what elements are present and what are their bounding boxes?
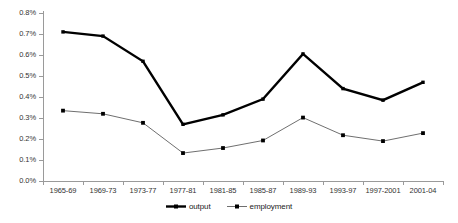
- legend-swatch-employment-icon: [227, 202, 247, 211]
- data-point: [101, 34, 104, 37]
- data-point: [261, 139, 265, 143]
- data-point: [141, 121, 145, 125]
- data-point: [381, 139, 385, 143]
- data-point: [341, 87, 344, 90]
- legend-label-output: output: [189, 203, 211, 211]
- legend-swatch-output-icon: [166, 202, 186, 211]
- series-layer: [0, 0, 458, 223]
- data-point: [181, 123, 184, 126]
- data-point: [301, 116, 305, 120]
- data-point: [341, 133, 345, 137]
- data-point: [221, 146, 225, 150]
- data-point: [101, 112, 105, 116]
- legend-label-employment: employment: [250, 203, 293, 211]
- data-point: [421, 131, 425, 135]
- legend: outputemployment: [0, 202, 458, 211]
- series-line-employment: [63, 111, 423, 153]
- legend-item-employment[interactable]: employment: [227, 202, 293, 211]
- data-point: [261, 97, 264, 100]
- line-chart: 0.8%0.7%0.6%0.5%0.4%0.3%0.2%0.1%0.0% 196…: [0, 0, 458, 223]
- series-employment: [61, 109, 425, 155]
- data-point: [301, 52, 304, 55]
- data-point: [221, 113, 224, 116]
- series-output: [61, 30, 424, 126]
- data-point: [61, 109, 65, 113]
- data-point: [181, 151, 185, 155]
- legend-item-output[interactable]: output: [166, 202, 211, 211]
- data-point: [141, 60, 144, 63]
- data-point: [421, 81, 424, 84]
- series-line-output: [63, 32, 423, 124]
- data-point: [381, 98, 384, 101]
- data-point: [61, 30, 64, 33]
